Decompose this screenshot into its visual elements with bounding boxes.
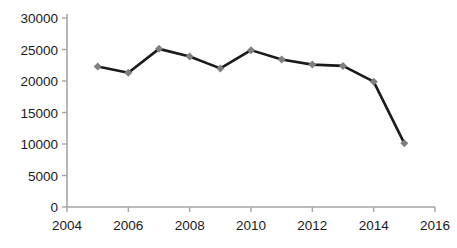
y-axis-tick-label: 15000 (20, 105, 58, 120)
x-axis-tick-label: 2006 (113, 218, 143, 233)
line-chart: 050001000015000200002500030000 200420062… (0, 0, 457, 248)
y-axis-tick-label: 5000 (28, 168, 58, 183)
x-axis-tick-label: 2010 (236, 218, 266, 233)
y-axis-tick-label: 20000 (20, 74, 58, 89)
data-point-marker (308, 61, 316, 69)
x-axis-tick-label: 2016 (420, 218, 450, 233)
data-point-marker (186, 52, 194, 60)
x-axis-tick-label: 2012 (297, 218, 327, 233)
axes (67, 14, 435, 207)
data-point-marker (278, 56, 286, 64)
y-axis-tick-label: 0 (50, 200, 58, 215)
x-axis-tick-label: 2014 (359, 218, 389, 233)
y-axis-tick-label: 30000 (20, 11, 58, 26)
data-line (98, 49, 405, 144)
data-point-marker (94, 63, 102, 71)
x-axis-tick-label: 2004 (52, 218, 82, 233)
y-axis-tick-label: 10000 (20, 137, 58, 152)
data-point-markers (94, 45, 409, 148)
x-axis-tick-label: 2008 (175, 218, 205, 233)
y-axis-tick-label: 25000 (20, 42, 58, 57)
tick-marks (62, 18, 435, 212)
chart-plot-area (0, 0, 457, 248)
